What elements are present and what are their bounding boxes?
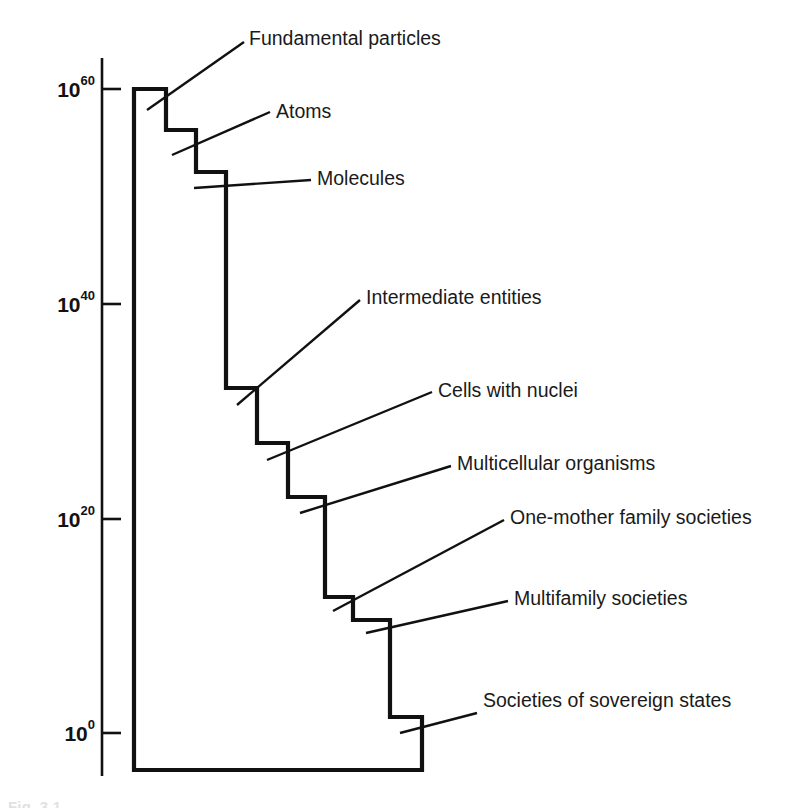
label-molecules: Molecules	[317, 167, 405, 189]
y-tick-label-1060: 1060	[57, 73, 95, 100]
y-tick-base-1040: 10	[57, 293, 80, 316]
label-societies-of-sovereign-states: Societies of sovereign states	[483, 689, 731, 711]
y-tick-label-100: 100	[64, 717, 95, 744]
label-atoms: Atoms	[276, 100, 332, 122]
figure-caption-fragment: Fig. 3.1	[8, 796, 61, 808]
y-tick-label-1040: 1040	[57, 288, 95, 315]
y-tick-base-100: 10	[64, 722, 87, 745]
y-tick-exponent-1040: 40	[81, 288, 95, 303]
leader-molecules	[194, 180, 311, 188]
y-tick-exponent-1060: 60	[81, 73, 95, 88]
label-multifamily-societies: Multifamily societies	[514, 587, 688, 609]
y-tick-label-1020: 1020	[57, 503, 95, 530]
leader-multifamily-societies	[366, 601, 508, 633]
label-intermediate-entities: Intermediate entities	[366, 286, 542, 308]
leader-atoms	[172, 112, 270, 155]
leader-one-mother-family-societies	[333, 520, 504, 611]
entity-labels-group: Fundamental particles Atoms Molecules In…	[249, 27, 752, 711]
hierarchy-step-chart: 1060 1040 1020 100 Fundamental particles…	[0, 0, 804, 809]
label-cells-with-nuclei: Cells with nuclei	[438, 379, 578, 401]
staircase-curve-group	[134, 89, 422, 770]
y-tick-exponent-1020: 20	[81, 503, 95, 518]
leader-fundamental-particles	[147, 42, 244, 110]
y-tick-base-1060: 10	[57, 78, 80, 101]
y-tick-exponent-100: 0	[88, 717, 95, 732]
staircase-curve	[134, 89, 422, 770]
y-axis: 1060 1040 1020 100	[57, 58, 121, 776]
label-multicellular-organisms: Multicellular organisms	[457, 452, 656, 474]
leader-intermediate-entities	[237, 300, 360, 405]
label-fundamental-particles: Fundamental particles	[249, 27, 441, 49]
figure-root: 1060 1040 1020 100 Fundamental particles…	[0, 0, 804, 809]
label-one-mother-family-societies: One-mother family societies	[510, 506, 752, 528]
leader-multicellular-organisms	[300, 466, 451, 513]
y-tick-base-1020: 10	[57, 508, 80, 531]
leader-cells-with-nuclei	[267, 392, 432, 460]
